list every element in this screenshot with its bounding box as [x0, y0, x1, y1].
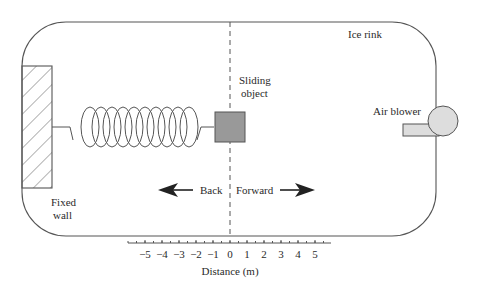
sliding-object-label-line2: object — [241, 87, 268, 99]
fixed-wall — [22, 66, 52, 188]
sliding-object — [215, 112, 245, 142]
distance-tick-label: 4 — [295, 248, 301, 260]
ice-rink-label: Ice rink — [348, 28, 382, 40]
distance-axis-label: Distance (m) — [201, 265, 258, 278]
fixed-wall-label-line2: wall — [53, 209, 72, 221]
distance-tick-label: −1 — [207, 248, 219, 260]
back-arrow — [158, 183, 193, 197]
back-label: Back — [200, 184, 223, 196]
air-blower-fan — [428, 106, 458, 136]
distance-tick-label: 3 — [278, 248, 284, 260]
distance-tick-label: −4 — [156, 248, 168, 260]
distance-axis-tick-labels: −5−4−3−2−1012345 — [139, 248, 318, 260]
forward-label: Forward — [236, 184, 274, 196]
spring — [52, 107, 214, 147]
distance-tick-label: −5 — [139, 248, 151, 260]
air-blower-label: Air blower — [373, 105, 421, 117]
ice-rink-diagram: Ice rink Sliding object Air blower Fixed… — [0, 0, 477, 288]
distance-axis — [128, 240, 331, 243]
forward-arrow — [280, 183, 315, 197]
distance-tick-label: 5 — [312, 248, 318, 260]
distance-tick-label: 0 — [227, 248, 233, 260]
distance-tick-label: −3 — [173, 248, 185, 260]
distance-tick-label: 1 — [244, 248, 250, 260]
distance-tick-label: −2 — [190, 248, 202, 260]
fixed-wall-label-line1: Fixed — [51, 196, 77, 208]
sliding-object-label-line1: Sliding — [239, 74, 271, 86]
distance-tick-label: 2 — [261, 248, 267, 260]
